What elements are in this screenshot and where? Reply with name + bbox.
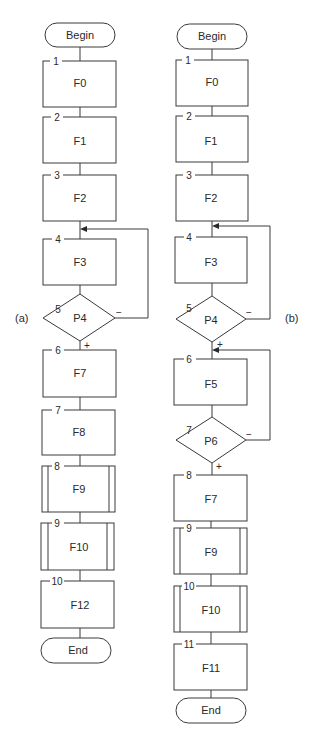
node-f9-a: 8 F9 [42, 461, 115, 512]
svg-text:8: 8 [186, 470, 192, 481]
svg-text:+: + [216, 461, 222, 472]
svg-text:F0: F0 [74, 77, 87, 89]
caption-a: (a) [15, 312, 28, 324]
arrowhead-icon [80, 226, 87, 232]
node-f3-a: 4 F3 [43, 234, 116, 285]
svg-text:End: End [68, 644, 88, 656]
svg-text:5: 5 [186, 303, 192, 314]
svg-text:End: End [201, 704, 221, 716]
svg-text:−: − [246, 307, 252, 318]
node-f12-a: 10 F12 [41, 576, 114, 628]
begin-terminal-a: Begin [45, 23, 115, 47]
end-terminal-a: End [41, 638, 111, 663]
svg-text:+: + [84, 340, 90, 351]
flowchart-canvas: Begin 1 F0 2 F1 3 F2 4 F3 5 P4 − + [0, 0, 313, 739]
svg-text:8: 8 [54, 461, 60, 472]
decision-p4-a: 5 P4 − + [43, 294, 122, 351]
svg-text:5: 5 [55, 304, 61, 315]
end-terminal-b: End [176, 698, 246, 723]
node-f5-b: 6 F5 [174, 354, 247, 405]
svg-text:3: 3 [186, 170, 192, 181]
svg-text:P6: P6 [204, 435, 217, 447]
svg-text:F2: F2 [74, 192, 87, 204]
svg-text:9: 9 [54, 518, 60, 529]
svg-text:F7: F7 [205, 493, 218, 505]
svg-text:10: 10 [51, 576, 63, 587]
begin-terminal-b: Begin [177, 24, 247, 49]
svg-text:9: 9 [186, 523, 192, 534]
svg-text:F3: F3 [74, 256, 87, 268]
svg-text:F5: F5 [205, 378, 218, 390]
svg-text:2: 2 [54, 112, 60, 123]
node-f2-a: 3 F2 [43, 170, 116, 221]
svg-text:F1: F1 [205, 135, 218, 147]
node-f10-a: 9 F10 [41, 518, 114, 570]
svg-text:Begin: Begin [198, 30, 226, 42]
svg-text:F11: F11 [202, 662, 220, 674]
decision-p6-b: 7 P6 − + [176, 417, 252, 472]
svg-text:P4: P4 [73, 312, 86, 324]
node-f1-a: 2 F1 [43, 112, 116, 163]
svg-text:F12: F12 [71, 599, 90, 611]
svg-text:F8: F8 [73, 426, 86, 438]
svg-text:3: 3 [54, 170, 60, 181]
node-f1-b: 2 F1 [176, 111, 248, 162]
node-f11-b: 11 F11 [174, 639, 247, 690]
node-f8-a: 7 F8 [42, 405, 115, 455]
panel-a: Begin 1 F0 2 F1 3 F2 4 F3 5 P4 − + [15, 23, 148, 663]
node-f2-b: 3 F2 [176, 170, 248, 221]
svg-text:F10: F10 [202, 604, 221, 616]
svg-text:4: 4 [186, 232, 192, 243]
svg-text:4: 4 [55, 234, 61, 245]
svg-text:F10: F10 [70, 541, 89, 553]
arrowhead-icon [212, 223, 219, 229]
svg-text:6: 6 [186, 354, 192, 365]
svg-text:1: 1 [185, 55, 191, 66]
svg-text:6: 6 [55, 345, 61, 356]
svg-text:+: + [217, 339, 223, 350]
node-f10-b: 10 F10 [174, 581, 247, 632]
node-f7-b: 8 F7 [174, 470, 247, 521]
node-f0-b: 1 F0 [176, 55, 248, 106]
svg-text:7: 7 [186, 425, 192, 436]
svg-text:1: 1 [53, 56, 59, 67]
decision-p4-b: 5 P4 − + [176, 296, 252, 350]
svg-text:2: 2 [186, 111, 192, 122]
node-f0-a: 1 F0 [43, 56, 116, 107]
svg-text:Begin: Begin [66, 29, 94, 41]
svg-text:F2: F2 [205, 192, 218, 204]
svg-text:P4: P4 [204, 314, 217, 326]
svg-text:10: 10 [183, 581, 195, 592]
svg-text:F7: F7 [74, 367, 87, 379]
svg-text:F1: F1 [74, 135, 87, 147]
panel-b: Begin 1 F0 2 F1 3 F2 4 F3 5 P4 − + [174, 24, 298, 723]
svg-text:F9: F9 [205, 546, 218, 558]
svg-text:−: − [116, 307, 122, 318]
node-f7-a: 6 F7 [43, 345, 116, 397]
svg-text:F3: F3 [205, 256, 218, 268]
svg-text:−: − [246, 429, 252, 440]
caption-b: (b) [285, 312, 298, 324]
svg-text:F0: F0 [206, 76, 219, 88]
svg-text:11: 11 [184, 639, 195, 650]
node-f9-b: 9 F9 [174, 523, 247, 574]
node-f3-b: 4 F3 [175, 232, 247, 283]
svg-text:F9: F9 [73, 483, 86, 495]
svg-text:7: 7 [55, 405, 61, 416]
